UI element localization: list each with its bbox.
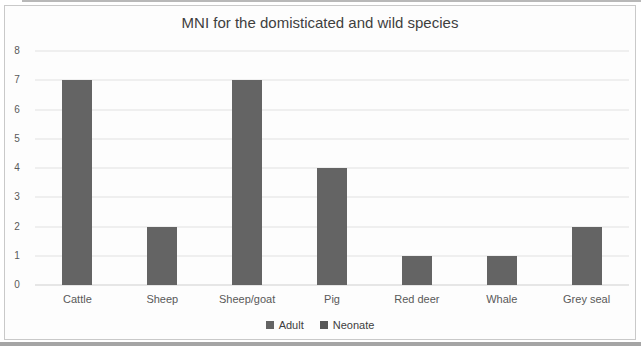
y-axis-tick-label: 4 (5, 163, 29, 173)
bar-group-grey-seal (544, 51, 629, 285)
bars-row (35, 51, 629, 285)
y-axis-tick-label: 8 (5, 46, 29, 56)
bar-group-sheep-goat (205, 51, 290, 285)
category-label: Sheep/goat (205, 293, 290, 305)
legend-item-adult: Adult (266, 319, 304, 331)
y-axis-tick-label: 1 (5, 251, 29, 261)
category-label: Whale (459, 293, 544, 305)
legend-swatch-neonate (320, 321, 328, 329)
category-label: Grey seal (544, 293, 629, 305)
y-axis-tick-label: 7 (5, 75, 29, 85)
y-axis-tick-label: 6 (5, 105, 29, 115)
plot-area (35, 51, 629, 285)
bar-adult (147, 227, 177, 286)
bar-group-cattle (35, 51, 120, 285)
y-axis-tick-label: 2 (5, 222, 29, 232)
chart-title: MNI for the domisticated and wild specie… (5, 14, 635, 31)
category-label: Sheep (120, 293, 205, 305)
y-axis-labels: 012345678 (5, 51, 29, 285)
y-axis-tick-label: 3 (5, 192, 29, 202)
legend-label: Adult (279, 319, 304, 331)
chart-frame: MNI for the domisticated and wild specie… (4, 5, 636, 340)
legend: AdultNeonate (5, 319, 635, 331)
legend-swatch-adult (266, 321, 274, 329)
category-labels: CattleSheepSheep/goatPigRed deerWhaleGre… (35, 293, 629, 305)
bar-adult (317, 168, 347, 285)
category-label: Cattle (35, 293, 120, 305)
page-edge-top (22, 0, 641, 2)
bar-group-sheep (120, 51, 205, 285)
bar-adult (232, 80, 262, 285)
bar-adult (62, 80, 92, 285)
page-edge-bottom (0, 342, 641, 346)
bar-adult (572, 227, 602, 286)
bar-group-whale (459, 51, 544, 285)
bar-adult (402, 256, 432, 285)
y-axis-tick-label: 0 (5, 280, 29, 290)
bar-group-red-deer (374, 51, 459, 285)
category-label: Pig (290, 293, 375, 305)
bar-group-pig (290, 51, 375, 285)
legend-item-neonate: Neonate (320, 319, 375, 331)
bar-adult (487, 256, 517, 285)
y-axis-tick-label: 5 (5, 134, 29, 144)
scanned-page: MNI for the domisticated and wild specie… (0, 0, 641, 346)
category-label: Red deer (374, 293, 459, 305)
legend-label: Neonate (333, 319, 375, 331)
